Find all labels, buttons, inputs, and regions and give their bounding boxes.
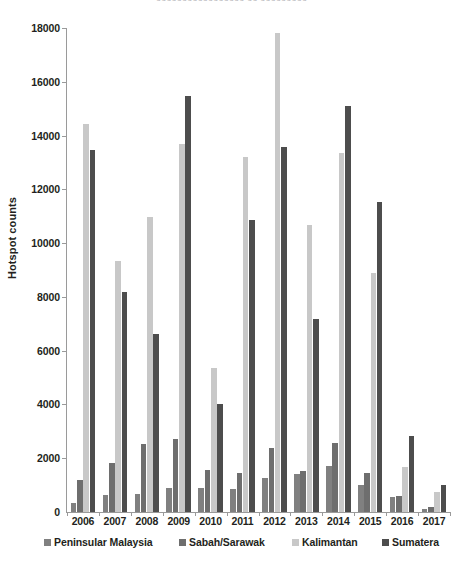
x-tick-label-2017: 2017 xyxy=(418,515,450,527)
x-axis-tick xyxy=(354,512,355,516)
bar-sumatera-2015 xyxy=(377,202,383,512)
clipped-caption-strip: ooooooooooooooooo oo ooooooooo xyxy=(0,0,463,9)
legend-label: Sumatera xyxy=(392,536,439,548)
x-tick-label-2011: 2011 xyxy=(227,515,259,527)
bar-sabah-sarawak-2011 xyxy=(237,473,243,512)
bar-group-2017 xyxy=(418,28,450,512)
legend-item-peninsular-malaysia[interactable]: Peninsular Malaysia xyxy=(44,536,152,548)
bar-group-2015 xyxy=(354,28,386,512)
bar-peninsular-malaysia-2006 xyxy=(71,503,77,512)
y-tick-label: 10000 xyxy=(14,237,60,249)
bar-group-2009 xyxy=(163,28,195,512)
bar-sabah-sarawak-2007 xyxy=(109,463,115,512)
legend-item-kalimantan[interactable]: Kalimantan xyxy=(292,536,358,548)
bar-kalimantan-2009 xyxy=(179,144,185,512)
bar-sumatera-2007 xyxy=(122,292,128,512)
x-axis-tick xyxy=(67,512,68,516)
bar-peninsular-malaysia-2012 xyxy=(262,478,268,512)
bar-sabah-sarawak-2006 xyxy=(77,480,83,512)
bar-group-2012 xyxy=(259,28,291,512)
x-axis-tick xyxy=(259,512,260,516)
legend-item-sumatera[interactable]: Sumatera xyxy=(382,536,439,548)
bar-sumatera-2006 xyxy=(90,150,96,512)
bar-sabah-sarawak-2010 xyxy=(205,470,211,512)
bar-sumatera-2011 xyxy=(249,220,255,512)
bar-sumatera-2010 xyxy=(217,404,223,512)
bar-kalimantan-2008 xyxy=(147,217,153,513)
bar-sabah-sarawak-2016 xyxy=(396,496,402,512)
x-tick-label-2013: 2013 xyxy=(290,515,322,527)
bar-peninsular-malaysia-2008 xyxy=(135,494,141,512)
bar-kalimantan-2011 xyxy=(243,157,249,512)
bar-peninsular-malaysia-2015 xyxy=(358,485,364,512)
bar-group-2006 xyxy=(67,28,99,512)
bar-kalimantan-2006 xyxy=(83,124,89,512)
y-axis-tick-labels: 0200040006000800010000120001400016000180… xyxy=(8,0,60,567)
bar-peninsular-malaysia-2013 xyxy=(294,474,300,512)
x-tick-label-2009: 2009 xyxy=(163,515,195,527)
x-axis-tick xyxy=(99,512,100,516)
legend-swatch-icon xyxy=(44,539,51,546)
x-tick-label-2015: 2015 xyxy=(354,515,386,527)
bar-peninsular-malaysia-2009 xyxy=(166,488,172,512)
x-axis-tick xyxy=(386,512,387,516)
legend-item-sabah-sarawak[interactable]: Sabah/Sarawak xyxy=(179,536,265,548)
bar-kalimantan-2010 xyxy=(211,368,217,512)
x-axis-tick-labels: 2006200720082009201020112012201320142015… xyxy=(67,515,450,533)
bar-peninsular-malaysia-2016 xyxy=(390,497,396,512)
x-axis-tick xyxy=(195,512,196,516)
bar-group-2008 xyxy=(131,28,163,512)
legend-label: Kalimantan xyxy=(302,536,358,548)
bar-peninsular-malaysia-2011 xyxy=(230,489,236,512)
x-axis-tick xyxy=(290,512,291,516)
bar-sumatera-2013 xyxy=(313,319,319,512)
y-axis-tick xyxy=(62,351,67,352)
x-tick-label-2014: 2014 xyxy=(322,515,354,527)
bar-kalimantan-2016 xyxy=(402,467,408,512)
bar-kalimantan-2017 xyxy=(434,492,440,512)
x-axis-tick xyxy=(322,512,323,516)
y-axis-tick xyxy=(62,297,67,298)
y-tick-label: 6000 xyxy=(14,345,60,357)
bars-layer xyxy=(67,28,450,512)
legend-label: Sabah/Sarawak xyxy=(189,536,265,548)
bar-kalimantan-2014 xyxy=(339,153,345,512)
y-tick-label: 0 xyxy=(14,506,60,518)
x-tick-label-2008: 2008 xyxy=(131,515,163,527)
legend-label: Peninsular Malaysia xyxy=(54,536,152,548)
bar-kalimantan-2012 xyxy=(275,33,281,512)
bar-sumatera-2009 xyxy=(185,96,191,512)
bar-peninsular-malaysia-2014 xyxy=(326,466,332,512)
y-tick-label: 8000 xyxy=(14,291,60,303)
bar-peninsular-malaysia-2007 xyxy=(103,495,109,512)
y-axis-tick xyxy=(62,28,67,29)
bar-kalimantan-2007 xyxy=(115,261,121,512)
bar-sabah-sarawak-2012 xyxy=(269,448,275,512)
x-axis-tick xyxy=(450,512,451,516)
bar-sabah-sarawak-2013 xyxy=(300,471,306,512)
chart-legend: Peninsular MalaysiaSabah/SarawakKalimant… xyxy=(44,536,444,552)
bar-peninsular-malaysia-2017 xyxy=(422,509,428,512)
x-tick-label-2006: 2006 xyxy=(67,515,99,527)
x-tick-label-2010: 2010 xyxy=(195,515,227,527)
y-tick-label: 2000 xyxy=(14,452,60,464)
bar-group-2013 xyxy=(290,28,322,512)
x-tick-label-2016: 2016 xyxy=(386,515,418,527)
x-axis-tick xyxy=(227,512,228,516)
y-axis-tick xyxy=(62,189,67,190)
y-axis-tick xyxy=(62,404,67,405)
y-tick-label: 4000 xyxy=(14,398,60,410)
x-axis-tick xyxy=(131,512,132,516)
bar-kalimantan-2013 xyxy=(307,225,313,512)
x-tick-label-2012: 2012 xyxy=(259,515,291,527)
bar-group-2007 xyxy=(99,28,131,512)
legend-swatch-icon xyxy=(382,539,389,546)
x-tick-label-2007: 2007 xyxy=(99,515,131,527)
bar-sabah-sarawak-2014 xyxy=(332,443,338,512)
legend-swatch-icon xyxy=(292,539,299,546)
y-tick-label: 16000 xyxy=(14,76,60,88)
bar-sabah-sarawak-2015 xyxy=(364,473,370,512)
y-axis-tick xyxy=(62,243,67,244)
bar-sumatera-2017 xyxy=(441,485,447,512)
bar-sumatera-2014 xyxy=(345,106,351,512)
